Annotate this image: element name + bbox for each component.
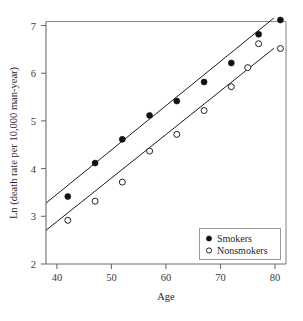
y-tick-label-3: 3: [31, 211, 36, 222]
regression-lines: [46, 18, 274, 230]
data-point-smoker: [174, 98, 180, 104]
data-point-nonsmoker: [92, 198, 98, 204]
legend-label-nonsmokers: Nonsmokers: [217, 245, 268, 256]
y-tick-label-7: 7: [31, 21, 36, 32]
y-tick-labels: 7 6 5 4 3 2: [31, 21, 37, 271]
data-point-smoker: [119, 136, 125, 142]
data-point-nonsmoker: [65, 217, 71, 223]
chart-legend: Smokers Nonsmokers: [200, 229, 281, 260]
data-point-smoker: [147, 112, 153, 118]
data-point-smoker: [256, 31, 262, 37]
scatter-plot: 7 6 5 4 3 2 40 50 60 70 80 Age Ln (death…: [0, 0, 303, 321]
y-axis-title: Ln (death rate per 10,000 man-year): [8, 66, 20, 219]
series-nonsmokers-points: [65, 41, 284, 224]
data-point-smoker: [65, 194, 71, 200]
series-smokers-points: [65, 17, 284, 200]
data-point-nonsmoker: [256, 41, 262, 47]
y-tick-label-5: 5: [31, 116, 36, 127]
chart-container: 7 6 5 4 3 2 40 50 60 70 80 Age Ln (death…: [0, 0, 303, 321]
legend-marker-smokers-icon: [206, 236, 211, 241]
x-axis-title: Age: [157, 291, 175, 302]
x-axis-ticks: [57, 264, 275, 269]
x-tick-label-80: 80: [270, 272, 281, 283]
x-tick-label-70: 70: [215, 272, 226, 283]
x-tick-labels: 40 50 60 70 80: [52, 272, 281, 283]
data-point-nonsmoker: [277, 46, 283, 52]
x-tick-label-50: 50: [106, 272, 117, 283]
data-point-nonsmoker: [245, 65, 251, 71]
y-tick-label-2: 2: [31, 259, 36, 270]
fit-line-nonsmokers: [46, 48, 274, 230]
plot-frame: [46, 22, 286, 265]
data-point-nonsmoker: [147, 148, 153, 154]
y-tick-label-6: 6: [31, 68, 36, 79]
data-point-smoker: [277, 17, 283, 23]
legend-label-smokers: Smokers: [217, 233, 252, 244]
y-axis-ticks: [41, 26, 46, 265]
data-point-nonsmoker: [201, 108, 207, 114]
x-tick-label-60: 60: [161, 272, 172, 283]
data-point-smoker: [228, 60, 234, 66]
data-point-nonsmoker: [228, 84, 234, 90]
y-tick-label-4: 4: [31, 164, 37, 175]
data-point-nonsmoker: [174, 131, 180, 137]
data-point-smoker: [201, 79, 207, 85]
x-tick-label-40: 40: [52, 272, 63, 283]
data-point-smoker: [92, 160, 98, 166]
data-point-nonsmoker: [119, 179, 125, 185]
legend-marker-nonsmokers-icon: [206, 248, 211, 253]
fit-line-smokers: [46, 18, 274, 203]
